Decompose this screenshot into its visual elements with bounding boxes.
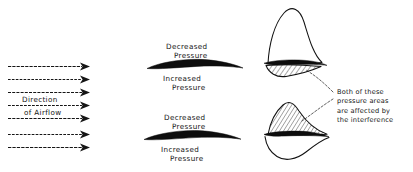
annotation-line3: are affected by <box>337 107 390 115</box>
canvas-background <box>0 0 413 172</box>
annotation-line4: the interference <box>337 116 393 124</box>
lower-airfoil-decreased-label-line2: Pressure <box>172 122 206 131</box>
annotation-line1: Both of these <box>337 88 384 96</box>
aerodynamics-diagram: Direction of Airflow Decreased Pressure … <box>0 0 413 172</box>
lower-airfoil-increased-label-line2: Pressure <box>170 154 204 163</box>
upper-airfoil-decreased-label-line2: Pressure <box>174 51 208 60</box>
upper-airfoil-decreased-label-line1: Decreased <box>166 42 207 51</box>
annotation-line2: pressure areas <box>337 97 389 105</box>
airflow-label-line2: of Airflow <box>24 108 61 117</box>
upper-airfoil-increased-label-line1: Increased <box>163 74 201 83</box>
upper-airfoil-increased-label-line2: Pressure <box>172 83 206 92</box>
lower-airfoil-increased-label-line1: Increased <box>161 145 199 154</box>
airflow-label-line1: Direction <box>22 95 58 104</box>
lower-airfoil-decreased-label-line1: Decreased <box>164 113 205 122</box>
figure-root: Direction of Airflow Decreased Pressure … <box>0 0 413 172</box>
